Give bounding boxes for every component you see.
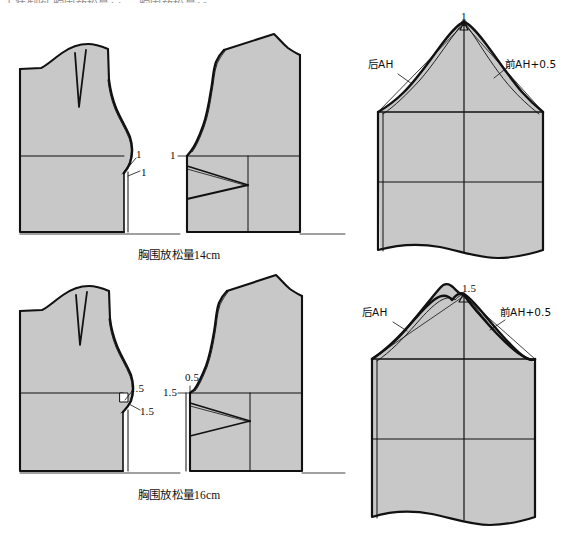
bodice-front-shape-16 xyxy=(190,275,302,471)
measure-front-side-top-16: 0.5 xyxy=(185,371,199,383)
measure-back-armhole-lower-14: 1 xyxy=(141,166,147,178)
measure-back-armhole-lower-16: 1.5 xyxy=(140,405,154,417)
measure-sleeve-cap-ease-16: 1.5 xyxy=(462,282,476,294)
sleeve-shape-16 xyxy=(372,284,535,525)
label-back-ah-16: 后AH xyxy=(362,306,387,318)
label-front-ah-14: 前AH+0.5 xyxy=(505,58,556,70)
label-front-ah-16: 前AH+0.5 xyxy=(500,306,551,318)
measure-front-side-16: 1.5 xyxy=(163,386,177,398)
measure-back-armhole-upper-14: 1 xyxy=(136,148,142,160)
pattern-drawing-canvas xyxy=(0,0,566,555)
measure-sleeve-cap-ease-14: 1 xyxy=(461,10,467,22)
bodice-front-shape-14 xyxy=(187,34,300,232)
caption-ease-16cm: 胸围放松量16cm xyxy=(138,489,220,502)
measure-front-side-14: 1 xyxy=(170,149,176,161)
caption-ease-14cm: 胸围放松量14cm xyxy=(138,249,220,262)
label-back-ah-14: 后AH xyxy=(368,58,393,70)
pattern-diagram-page: 上装制图 胸围放松量14cm 胸围放松量16cm xyxy=(0,0,566,555)
measure-back-armhole-upper-16: 1.5 xyxy=(130,382,144,394)
